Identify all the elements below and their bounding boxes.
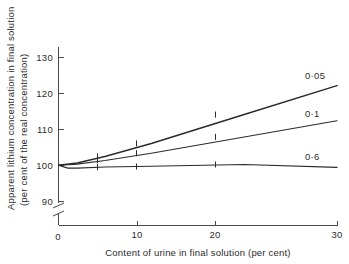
- x-tick-label-10: 10: [131, 229, 142, 240]
- series-label-0-1: 0·1: [305, 108, 320, 119]
- data-point-markers: [98, 112, 216, 171]
- y-tick-label-130: 130: [36, 52, 53, 63]
- series-label-0-05: 0·05: [305, 70, 325, 81]
- y-axis-break-mark-upper: [53, 203, 64, 208]
- y-tick-label-90: 90: [42, 196, 53, 207]
- x-tick-label-0: 0: [55, 231, 61, 242]
- series-line-0-05: [59, 86, 338, 166]
- y-tick-label-100: 100: [36, 160, 53, 171]
- y-tick-label-110: 110: [37, 124, 53, 135]
- y-tick-label-120: 120: [36, 88, 53, 99]
- y-axis-title-line2: (per cent of the real concentration): [18, 54, 29, 206]
- y-axis-title-line1: Apparent lithium concentration in final …: [5, 7, 16, 210]
- x-tick-label-30: 30: [331, 229, 342, 240]
- series-label-0-6: 0·6: [305, 151, 320, 162]
- x-tick-label-20: 20: [209, 229, 220, 240]
- series-line-0-1: [59, 121, 338, 166]
- line-chart-canvas: Apparent lithium concentration in final …: [0, 0, 349, 264]
- series-line-0-6: [59, 165, 338, 169]
- x-axis-title: Content of urine in final solution (per …: [105, 247, 290, 258]
